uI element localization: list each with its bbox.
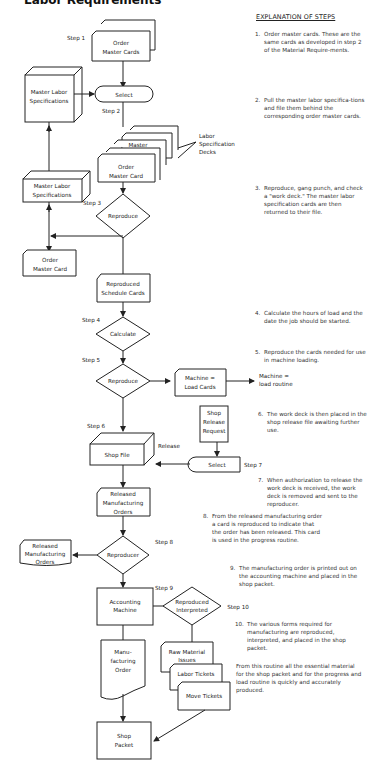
node-label: Reproduce (108, 378, 138, 385)
step-label-9: Step 9 (155, 585, 174, 592)
explanation-step-9: 9.The manufacturing order is printed out… (230, 564, 365, 588)
node-label: Reproduced (106, 281, 140, 288)
node-label: facturing (110, 658, 136, 665)
node-label: Select (208, 462, 226, 468)
machine-load-cards (175, 369, 226, 396)
step-label-6: Step 6 (87, 423, 106, 430)
node-label: Interpreted (176, 607, 208, 614)
node-label: Master (128, 142, 148, 148)
explanation-closing: From this routine all the essential mate… (236, 662, 364, 694)
explanation-step-4: 4.Calculate the hours of load and the da… (255, 309, 367, 325)
node-label: Accounting (109, 599, 141, 606)
node-label: Raw Material (169, 649, 206, 655)
step-label-8: Step 8 (155, 539, 174, 546)
node-label: Master Card (109, 173, 143, 179)
node-label: Manufacturing (103, 500, 144, 507)
node-label: Machine (113, 607, 137, 613)
node-label: Order (42, 257, 59, 263)
reproduced-schedule-cards (97, 274, 150, 302)
node-label: Move Tickets (186, 693, 222, 699)
node-label: Order (113, 40, 130, 46)
explanation-step-3: 3.Reproduce, gang punch, and check a "wo… (255, 184, 367, 216)
node-label: Labor Tickets (177, 671, 214, 677)
node-label: Shop (207, 410, 222, 417)
node-label: Calculate (110, 331, 137, 337)
explanation-heading: EXPLANATION OF STEPS (256, 13, 335, 21)
node-label: Issues (178, 657, 195, 663)
node-label: Manu- (114, 649, 131, 655)
step-label-7: Step 7 (244, 462, 263, 469)
explanation-step-5: 5.Reproduce the cards needed for use in … (255, 348, 367, 364)
explanation-step-7: 7.When authorization to release the work… (258, 476, 368, 508)
node-label: Reproduced (175, 599, 209, 606)
node-label: Reproduce (108, 213, 138, 220)
node-label: Reproducer (107, 552, 140, 559)
node-label: Specifications (33, 192, 72, 199)
node-label: Request (203, 428, 227, 435)
node-label: Shop (117, 733, 132, 740)
node-label: Orders (114, 509, 133, 515)
node-label: Order (118, 164, 135, 170)
node-label: Master Labor (31, 89, 68, 95)
node-label: Released (110, 491, 136, 497)
node-label: load routine (259, 381, 293, 387)
step-label-10: Step 10 (227, 604, 249, 611)
node-label: Specifications (30, 98, 69, 105)
node-label: Release (203, 419, 225, 425)
node-label: Select (115, 92, 133, 98)
node-label: Load Cards (184, 384, 215, 390)
node-label: Labor (199, 133, 216, 139)
node-label: Shop File (104, 452, 130, 459)
step-label-4: Step 4 (82, 317, 101, 324)
order-master-card-output (23, 250, 76, 276)
step-label-5: Step 5 (82, 357, 101, 364)
shop-packet (97, 722, 151, 759)
node-label: Decks (199, 149, 216, 155)
node-label: Master Labor (34, 183, 71, 189)
explanation-step-10: 10.The various forms required for manufa… (235, 620, 365, 652)
node-label: Schedule Cards (101, 290, 145, 296)
shop-file-node (90, 433, 154, 465)
node-label: Released (32, 543, 58, 549)
explanation-step-1: 1.Order master cards. These are the same… (255, 30, 367, 54)
node-label: Master Cards (103, 49, 140, 55)
node-label: Specification (199, 141, 235, 148)
reproduced-interpreted-diamond (163, 587, 221, 625)
explanation-step-2: 2.Pull the master labor specifica-tions … (255, 96, 367, 120)
node-label: Machine = (259, 373, 289, 379)
node-label: Master Card (33, 266, 67, 272)
step-label-1: Step 1 (67, 35, 86, 42)
explanation-step-6: 6.The work deck is then placed in the sh… (258, 410, 368, 434)
explanation-step-8: 8.From the released manufacturing order … (203, 512, 323, 544)
node-label: Order (115, 667, 132, 673)
node-label: Machine = (185, 375, 215, 381)
node-label: Packet (115, 742, 134, 748)
step-label-3: Step 3 (83, 200, 102, 207)
step-label-2: Step 2 (102, 108, 120, 115)
node-label: Orders (36, 559, 55, 565)
node-label: Release (158, 443, 180, 449)
node-label: Manufacturing (25, 551, 66, 558)
